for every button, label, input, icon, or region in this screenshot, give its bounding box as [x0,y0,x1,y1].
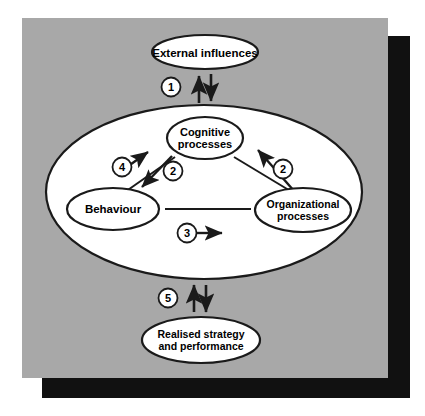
node-external-influences-label: External influences [152,47,257,59]
diagram-canvas: External influences Cognitive processes … [0,0,425,416]
badge-three-label: 3 [184,227,190,239]
badge-one-label: 1 [168,81,174,93]
badge-two-right-label: 2 [280,163,286,175]
node-realised-strategy-label-line1: Realised strategy [158,328,245,340]
node-organizational-processes[interactable]: Organizational processes [255,188,351,232]
badge-two-left-label: 2 [170,165,176,177]
node-cognitive-processes-label-line1: Cognitive [180,126,230,138]
node-external-influences[interactable]: External influences [152,35,258,69]
node-realised-strategy-label-line2: and performance [158,340,243,352]
node-organizational-processes-label-line1: Organizational [267,198,340,210]
node-realised-strategy[interactable]: Realised strategy and performance [142,317,260,363]
badge-three[interactable]: 3 [178,224,197,243]
node-behaviour[interactable]: Behaviour [67,188,159,230]
badge-five-label: 5 [165,292,171,304]
node-behaviour-label: Behaviour [85,203,142,215]
node-cognitive-processes[interactable]: Cognitive processes [167,117,243,159]
badge-five[interactable]: 5 [159,289,178,308]
node-cognitive-processes-label-line2: processes [178,138,232,150]
badge-two-right[interactable]: 2 [274,160,293,179]
node-organizational-processes-label-line2: processes [277,210,329,222]
badge-two-left[interactable]: 2 [164,162,183,181]
badge-four[interactable]: 4 [113,158,132,177]
badge-four-label: 4 [119,161,126,173]
figure-root: External influences Cognitive processes … [0,0,425,416]
badge-one[interactable]: 1 [162,78,181,97]
